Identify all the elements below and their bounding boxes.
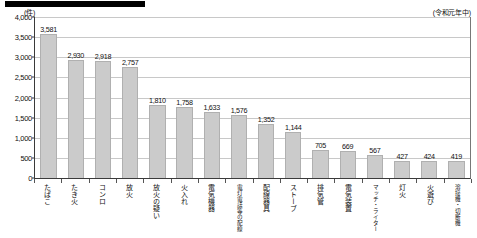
- x-label-slot: 配線器具: [253, 184, 280, 236]
- y-tick-label: 3,500: [15, 33, 32, 42]
- x-tick-mark: [280, 179, 281, 183]
- y-tick-label: 4,000: [15, 13, 32, 22]
- bar: 419: [448, 161, 464, 178]
- bar-value-label: 427: [396, 152, 407, 161]
- x-tick-mark: [143, 179, 144, 183]
- x-label-slot: 火入れ: [171, 184, 198, 236]
- bar-slot: 2,918: [89, 17, 116, 178]
- x-label-slot: コンロ: [89, 184, 116, 236]
- x-axis-category-label: 火遊び: [427, 184, 434, 205]
- x-tick-mark: [253, 179, 254, 183]
- bar-slot: 1,633: [198, 17, 225, 178]
- x-axis-category-label: 電灯電話等の配線: [236, 184, 242, 232]
- x-tick-mark: [89, 179, 90, 183]
- bar: 3,581: [40, 34, 56, 178]
- bar-value-label: 2,918: [95, 52, 112, 61]
- x-axis-labels: たばこたき火コンロ放火放火の疑い火入れ電気機器電灯電話等の配線配線器具ストーブ排…: [34, 184, 471, 236]
- x-label-slot: たばこ: [34, 184, 61, 236]
- bar: 1,144: [285, 132, 301, 178]
- bar: 2,918: [95, 61, 111, 178]
- x-tick-mark: [307, 179, 308, 183]
- x-tick-mark: [471, 179, 472, 183]
- x-tick-mark: [444, 179, 445, 183]
- x-label-slot: 火遊び: [416, 184, 443, 236]
- y-tick-label: 500: [20, 153, 32, 162]
- bar-slot: 1,144: [280, 17, 307, 178]
- y-tick-label: 0: [28, 174, 32, 183]
- x-tick-mark: [416, 179, 417, 183]
- x-axis-category-label: 灯火: [399, 184, 406, 198]
- bar-slot: 1,352: [253, 17, 280, 178]
- bar-value-label: 1,576: [231, 106, 248, 115]
- bar-value-label: 669: [342, 142, 353, 151]
- x-axis-category-label: コンロ: [99, 184, 106, 205]
- y-tick-label: 2,500: [15, 73, 32, 82]
- x-label-slot: 電灯電話等の配線: [225, 184, 252, 236]
- x-label-slot: 放火: [116, 184, 143, 236]
- x-label-slot: 放火の疑い: [143, 184, 170, 236]
- bar-value-label: 419: [451, 152, 462, 161]
- bar-value-label: 1,144: [285, 123, 302, 132]
- bar: 1,810: [149, 105, 165, 178]
- bar-value-label: 705: [315, 141, 326, 150]
- x-axis-category-label: たき火: [71, 184, 78, 205]
- bar: 669: [340, 151, 356, 178]
- x-axis-category-label: 放火の疑い: [153, 184, 160, 219]
- x-axis-category-label: マッチ・ライター: [373, 184, 379, 232]
- x-tick-mark: [389, 179, 390, 183]
- bar-value-label: 2,930: [68, 51, 85, 60]
- y-tick-label: 2,000: [15, 93, 32, 102]
- bar-slot: 424: [416, 17, 443, 178]
- bar-value-label: 1,352: [258, 115, 275, 124]
- x-tick-mark: [34, 179, 35, 183]
- x-label-slot: 溶接機・切断機: [444, 184, 471, 236]
- bar: 427: [394, 161, 410, 178]
- bar: 2,930: [68, 60, 84, 178]
- x-tick-mark: [198, 179, 199, 183]
- x-axis-category-label: 火入れ: [181, 184, 188, 205]
- x-axis-category-label: 電気装置: [345, 184, 352, 212]
- bar-slot: 427: [388, 17, 415, 178]
- x-axis-category-label: 溶接機・切断機: [455, 184, 461, 226]
- x-axis-ticks: [34, 179, 471, 183]
- y-tick-label: 1,000: [15, 133, 32, 142]
- chart-container: 05001,0001,5002,0002,5003,0003,5004,000 …: [0, 0, 477, 238]
- y-tick-label: 1,500: [15, 113, 32, 122]
- bar: 1,633: [204, 112, 220, 178]
- x-tick-mark: [334, 179, 335, 183]
- plot-area: 05001,0001,5002,0002,5003,0003,5004,000 …: [34, 17, 471, 179]
- bar-value-label: 1,758: [176, 98, 193, 107]
- x-tick-mark: [362, 179, 363, 183]
- x-axis-category-label: たばこ: [44, 184, 51, 205]
- bar-value-label: 1,633: [203, 103, 220, 112]
- x-axis-category-label: 排気管: [317, 184, 324, 205]
- bar-slot: 3,581: [35, 17, 62, 178]
- x-axis-category-label: 放火: [126, 184, 133, 198]
- x-label-slot: 電気装置: [334, 184, 361, 236]
- x-label-slot: マッチ・ライター: [362, 184, 389, 236]
- bar: 424: [421, 161, 437, 178]
- x-axis-category-label: ストーブ: [290, 184, 297, 212]
- x-label-slot: 灯火: [389, 184, 416, 236]
- bar: 567: [367, 155, 383, 178]
- bar-slot: 1,810: [144, 17, 171, 178]
- x-label-slot: たき火: [61, 184, 88, 236]
- bar-slot: 1,576: [225, 17, 252, 178]
- x-tick-mark: [116, 179, 117, 183]
- bar-slot: 669: [334, 17, 361, 178]
- bar: 1,576: [231, 115, 247, 178]
- bar-slot: 567: [361, 17, 388, 178]
- y-tick-label: 3,000: [15, 53, 32, 62]
- x-axis-category-label: 配線器具: [263, 184, 270, 212]
- x-label-slot: 排気管: [307, 184, 334, 236]
- bar-series: 3,5812,9302,9182,7571,8101,7581,6331,576…: [35, 17, 470, 178]
- bar: 1,352: [258, 124, 274, 178]
- bar-value-label: 567: [369, 146, 380, 155]
- bar-slot: 2,757: [117, 17, 144, 178]
- x-tick-mark: [225, 179, 226, 183]
- bar-slot: 705: [307, 17, 334, 178]
- bar-value-label: 1,810: [149, 96, 166, 105]
- bar-slot: 2,930: [62, 17, 89, 178]
- x-tick-mark: [171, 179, 172, 183]
- bar: 2,757: [122, 67, 138, 178]
